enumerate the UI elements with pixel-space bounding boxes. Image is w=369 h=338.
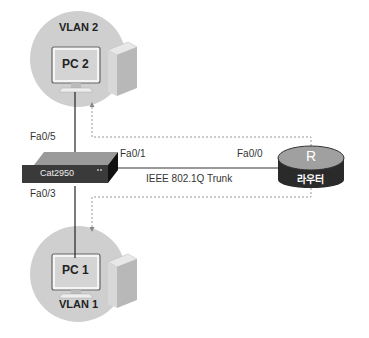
pc2-tower-icon	[108, 42, 137, 96]
pc2-name-label: PC 2	[62, 57, 89, 71]
pc1-tower-icon	[108, 254, 137, 308]
port-fa0-5-label: Fa0/5	[30, 131, 56, 142]
port-fa0-1-label: Fa0/1	[120, 148, 146, 159]
port-fa0-0-label: Fa0/0	[237, 148, 263, 159]
switch-name-label: Cat2950	[40, 168, 74, 178]
dotted-path-to-pc2	[92, 106, 311, 150]
trunk-label: IEEE 802.1Q Trunk	[146, 173, 232, 184]
pc1-vlan-label: VLAN 1	[59, 298, 98, 310]
dotted-path-to-pc1	[92, 188, 311, 228]
router-symbol-label: R	[306, 148, 316, 164]
pc2-vlan-label: VLAN 2	[59, 21, 98, 33]
router-name-label: 라우터	[297, 171, 324, 186]
pc1-name-label: PC 1	[62, 263, 89, 277]
port-fa0-3-label: Fa0/3	[30, 188, 56, 199]
